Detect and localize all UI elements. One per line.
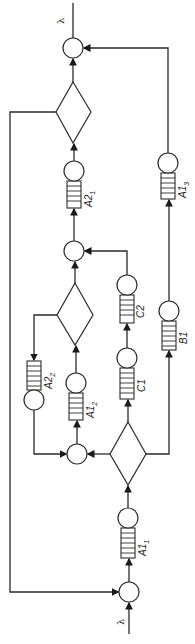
top-decision-diamond <box>56 82 91 143</box>
edge-diamond-a22 <box>34 315 57 360</box>
queue-a1-2 <box>66 373 86 420</box>
label-c2: C2 <box>135 305 146 318</box>
label-a2-1: A21 <box>83 191 96 208</box>
server-c2 <box>117 275 137 295</box>
queueing-network-diagram: λ λ A11 A12 A22 C1 C2 B1 A21 A13 <box>0 0 195 644</box>
label-c1: C1 <box>136 379 147 392</box>
label-a1-1: A11 <box>137 540 150 557</box>
feedback-line <box>10 112 118 592</box>
server-a1-1 <box>118 508 138 528</box>
server-a1-3 <box>158 153 178 173</box>
label-a1-3: A13 <box>177 182 190 199</box>
label-b1: B1 <box>178 332 189 344</box>
label-a1-2: A12 <box>85 402 98 419</box>
queue-a1-3 <box>158 153 178 199</box>
server-a1-2 <box>66 373 86 393</box>
edge-c2-merge <box>85 251 127 275</box>
queue-c1 <box>117 348 137 399</box>
server-b1 <box>159 301 179 321</box>
queue-a2-1 <box>64 161 84 208</box>
edge-diamond-b1 <box>146 351 169 454</box>
output-junction <box>63 38 83 58</box>
server-a2-2 <box>24 390 44 410</box>
queue-c2 <box>117 275 137 323</box>
bottom-decision-diamond <box>110 422 146 485</box>
edge-a13-output <box>84 48 168 153</box>
server-c1 <box>117 348 137 368</box>
input-lambda-label: λ <box>115 618 126 625</box>
lower-merge-junction <box>67 444 87 464</box>
queue-a1-1 <box>118 508 138 558</box>
middle-decision-diamond <box>57 283 93 345</box>
server-a2-1 <box>64 161 84 181</box>
output-lambda-label: λ <box>55 17 66 24</box>
upper-merge-junction <box>64 241 84 261</box>
queue-a2-2 <box>24 361 44 410</box>
input-junction <box>119 582 139 602</box>
edge-a22-merge <box>34 410 66 454</box>
label-a2-2: A22 <box>43 373 56 390</box>
queue-b1 <box>159 301 179 350</box>
